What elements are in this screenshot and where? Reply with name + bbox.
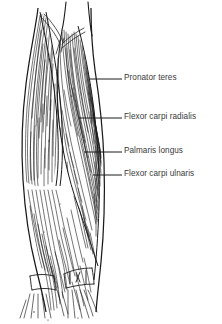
label-flexor-carpi-radialis: Flexor carpi radialis xyxy=(124,112,196,121)
forearm-anatomy-figure: Pronator teres Flexor carpi radialis Pal… xyxy=(0,0,222,324)
label-flexor-carpi-ulnaris: Flexor carpi ulnaris xyxy=(124,169,194,178)
forearm-illustration xyxy=(0,0,222,324)
label-pronator-teres: Pronator teres xyxy=(124,73,177,82)
label-palmaris-longus: Palmaris longus xyxy=(124,146,183,155)
